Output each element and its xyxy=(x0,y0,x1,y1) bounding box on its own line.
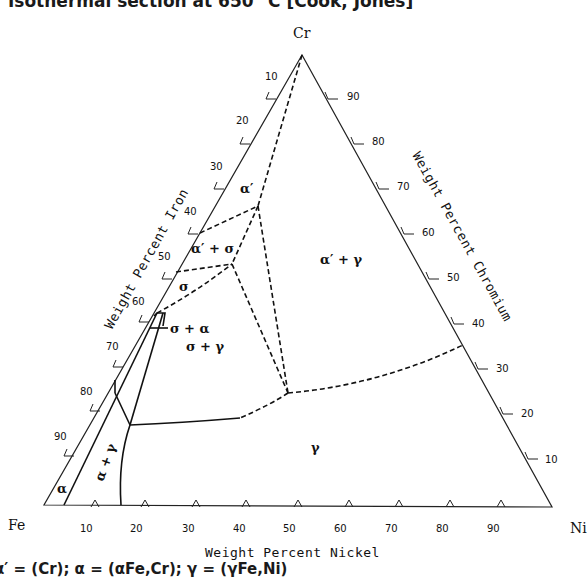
svg-text:80: 80 xyxy=(80,386,93,397)
phase-label-alpha-prime-sigma: α′ + σ xyxy=(191,241,234,256)
phase-label-alpha-gamma: α + γ xyxy=(92,441,119,483)
phase-label-sigma-alpha: σ + α xyxy=(170,321,210,336)
right-axis-tick-labels: 90 80 70 60 50 40 30 20 10 xyxy=(347,91,558,465)
svg-text:40: 40 xyxy=(233,523,246,534)
svg-text:80: 80 xyxy=(372,136,385,147)
svg-text:60: 60 xyxy=(132,296,145,307)
left-axis-tick-labels: 10 20 30 40 50 60 70 80 90 xyxy=(54,71,278,442)
phase-label-alpha-prime-gamma: α′ + γ xyxy=(320,252,362,267)
svg-text:50: 50 xyxy=(283,523,296,534)
svg-text:50: 50 xyxy=(158,251,171,262)
diagram-caption: α′ = (Cr); α = (αFe,Cr); γ = (γFe,Ni) xyxy=(0,560,287,578)
left-axis-ticks xyxy=(64,92,276,456)
ternary-frame xyxy=(44,55,552,507)
svg-text:90: 90 xyxy=(54,431,67,442)
svg-text:40: 40 xyxy=(472,318,485,329)
svg-text:60: 60 xyxy=(422,227,435,238)
phase-label-sigma: σ xyxy=(179,279,189,294)
svg-text:10: 10 xyxy=(545,454,558,465)
right-axis-ticks xyxy=(325,92,538,459)
svg-text:90: 90 xyxy=(487,523,500,534)
phase-label-sigma-gamma: σ + γ xyxy=(186,339,225,354)
svg-text:40: 40 xyxy=(184,206,197,217)
bottom-axis-title: Weight Percent Nickel xyxy=(205,545,380,560)
svg-text:20: 20 xyxy=(521,408,534,419)
svg-text:90: 90 xyxy=(347,91,360,102)
svg-text:20: 20 xyxy=(130,523,143,534)
svg-text:30: 30 xyxy=(182,523,195,534)
svg-text:70: 70 xyxy=(106,341,119,352)
bottom-axis-tick-labels: 10 20 30 40 50 60 70 80 90 xyxy=(80,523,500,534)
svg-text:30: 30 xyxy=(496,363,509,374)
left-axis-title: Weight Percent Iron xyxy=(102,186,192,332)
svg-text:10: 10 xyxy=(265,71,278,82)
dashed-phase-boundaries xyxy=(157,55,463,418)
svg-text:60: 60 xyxy=(334,523,347,534)
svg-text:80: 80 xyxy=(436,523,449,534)
svg-text:50: 50 xyxy=(447,272,460,283)
corner-label-fe: Fe xyxy=(8,517,25,533)
svg-text:10: 10 xyxy=(80,523,93,534)
phase-label-alpha-prime: α′ xyxy=(240,181,254,196)
phase-label-alpha: α xyxy=(57,481,67,496)
svg-text:70: 70 xyxy=(397,181,410,192)
phase-label-gamma: γ xyxy=(311,440,320,455)
svg-text:30: 30 xyxy=(210,161,223,172)
svg-text:20: 20 xyxy=(236,115,249,126)
svg-text:70: 70 xyxy=(385,523,398,534)
corner-label-ni: Ni xyxy=(570,520,587,536)
corner-label-cr: Cr xyxy=(293,25,311,41)
